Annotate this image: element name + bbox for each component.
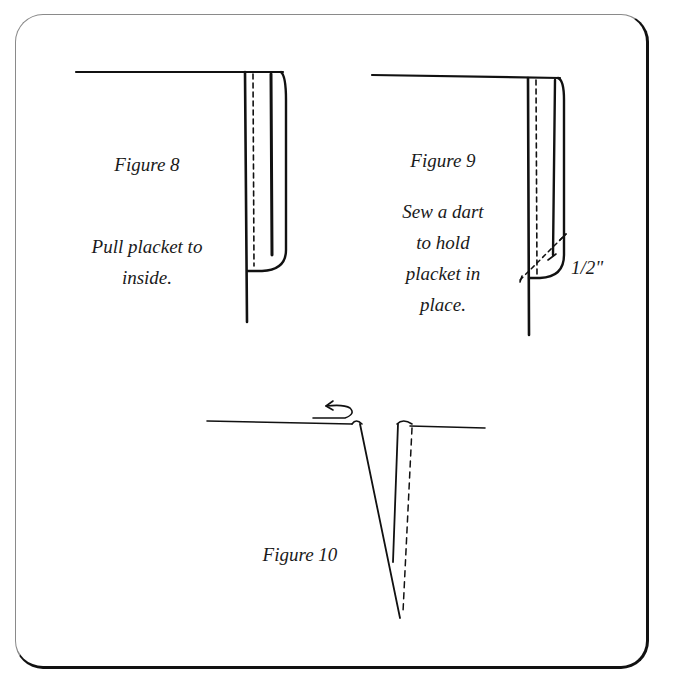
- figure-9-caption-line: Sew a dart: [383, 196, 503, 227]
- sewing-diagrams: [0, 0, 673, 694]
- figure-9-caption-line: place.: [383, 289, 503, 320]
- figure-10-title: Figure 10: [250, 539, 350, 570]
- figure-9-caption-line: placket in: [383, 258, 503, 289]
- figure-9-caption: Sew a dart to hold placket in place.: [383, 196, 503, 320]
- fold-arrow-icon: [313, 401, 352, 418]
- measurement-label: 1/2": [571, 252, 603, 283]
- figure-8-title: Figure 8: [97, 149, 197, 180]
- figure-8-caption: Pull placket to inside.: [72, 231, 222, 293]
- figure-9-title: Figure 9: [393, 145, 493, 176]
- figure-8-caption-line: Pull placket to: [72, 231, 222, 262]
- figure-8-caption-line: inside.: [72, 262, 222, 293]
- figure-9-caption-line: to hold: [383, 227, 503, 258]
- figure-10-drawing: [207, 401, 485, 618]
